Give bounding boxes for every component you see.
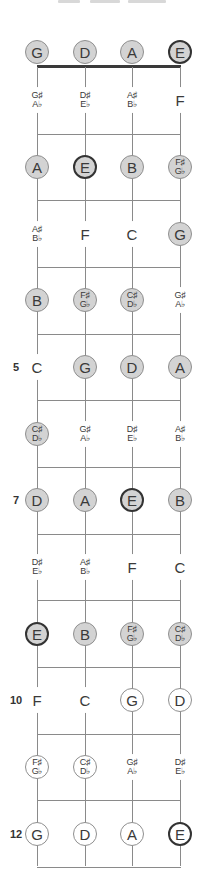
fret-line-2 (37, 200, 181, 201)
note-marker: A♯B♭ (25, 221, 49, 247)
note-marker: D♯E♭ (25, 554, 49, 580)
note-marker: D (168, 688, 192, 712)
note-marker: D♯E♭ (120, 421, 144, 447)
note-label: E (127, 493, 137, 508)
note-label: C (32, 360, 43, 375)
fret-line-12 (37, 867, 181, 868)
note-label: G (31, 827, 43, 842)
note-marker: A (25, 155, 49, 179)
note-label: C (80, 693, 91, 708)
fret-line-1 (37, 134, 181, 135)
note-label-enharmonic: A♭ (127, 767, 136, 776)
note-marker: G (168, 222, 192, 246)
note-label-enharmonic: A♭ (175, 300, 184, 309)
note-marker: E (120, 488, 144, 512)
note-label: D (80, 827, 91, 842)
note-marker: G (25, 40, 49, 64)
note-label-enharmonic: B♭ (80, 567, 89, 576)
note-marker: F♯G♭ (73, 288, 97, 312)
note-marker: D♯E♭ (168, 754, 192, 780)
note-marker: F♯G♭ (168, 155, 192, 179)
note-marker: C (73, 687, 97, 713)
note-marker: E (168, 40, 192, 64)
note-label-enharmonic: D♭ (175, 634, 185, 643)
note-label: G (79, 360, 91, 375)
note-label: A (80, 493, 90, 508)
note-label: B (80, 627, 90, 642)
note-marker: D (73, 40, 97, 64)
note-label: A (32, 160, 42, 175)
fret-line-7 (37, 534, 181, 535)
note-marker: A♯B♭ (73, 554, 97, 580)
fret-number-label: 5 (9, 360, 23, 374)
fretboard-diagram: 571012GDAEG♯A♭D♯E♭A♯B♭FAEBF♯G♭A♯B♭FCGBF♯… (0, 0, 204, 884)
note-label-enharmonic: B♭ (32, 234, 41, 243)
note-label: A (127, 45, 137, 60)
note-label-enharmonic: E♭ (127, 434, 136, 443)
note-label: D (32, 493, 43, 508)
fret-line-6 (37, 467, 181, 468)
fret-line-11 (37, 800, 181, 801)
fret-line-4 (37, 334, 181, 335)
note-marker: F (120, 554, 144, 580)
note-marker: F (168, 87, 192, 113)
nut-line (37, 65, 181, 68)
note-marker: C (120, 221, 144, 247)
fret-line-8 (37, 600, 181, 601)
note-marker: C♯D♭ (25, 422, 49, 446)
cropped-title-fragment (128, 0, 166, 3)
note-label-enharmonic: B♭ (175, 434, 184, 443)
fret-line-3 (37, 267, 181, 268)
note-label: B (127, 160, 137, 175)
note-label-enharmonic: D♭ (32, 434, 42, 443)
note-marker: B (168, 488, 192, 512)
note-marker: A (168, 355, 192, 379)
note-marker: B (73, 622, 97, 646)
note-marker: G (25, 822, 49, 846)
note-marker: E (25, 622, 49, 646)
note-label-enharmonic: G♭ (127, 634, 137, 643)
note-label: G (126, 693, 138, 708)
fret-line-5 (37, 400, 181, 401)
note-marker: D (25, 488, 49, 512)
cropped-title-fragment (90, 0, 120, 3)
fret-number-label: 7 (9, 493, 23, 507)
note-label: F (32, 693, 41, 708)
note-marker: E (168, 822, 192, 846)
note-marker: C (168, 554, 192, 580)
note-label: E (175, 45, 185, 60)
note-marker: D (73, 822, 97, 846)
note-marker: A (120, 40, 144, 64)
note-label: F (175, 93, 184, 108)
note-label: F (80, 227, 89, 242)
note-label: E (80, 160, 90, 175)
note-marker: G♯A♭ (25, 87, 49, 113)
note-label-enharmonic: A♭ (32, 100, 41, 109)
note-label-enharmonic: E♭ (80, 100, 89, 109)
note-label: D (175, 693, 186, 708)
fret-number-label: 12 (9, 827, 23, 841)
note-marker: C♯D♭ (168, 622, 192, 646)
fret-number-label: 10 (9, 693, 23, 707)
note-marker: G♯A♭ (73, 421, 97, 447)
note-marker: C♯D♭ (120, 288, 144, 312)
note-label: B (32, 293, 42, 308)
note-marker: F (73, 221, 97, 247)
note-marker: A♯B♭ (168, 421, 192, 447)
note-label: D (80, 45, 91, 60)
note-marker: A♯B♭ (120, 87, 144, 113)
note-label-enharmonic: G♭ (32, 767, 42, 776)
note-marker: B (25, 288, 49, 312)
note-label-enharmonic: A♭ (80, 434, 89, 443)
note-label-enharmonic: G♭ (80, 300, 90, 309)
note-label: E (32, 627, 42, 642)
note-marker: F (25, 687, 49, 713)
note-label: B (175, 493, 185, 508)
note-marker: D (120, 355, 144, 379)
note-marker: G (120, 688, 144, 712)
note-label: C (127, 227, 138, 242)
note-marker: D♯E♭ (73, 87, 97, 113)
note-label-enharmonic: G♭ (175, 167, 185, 176)
note-label: D (127, 360, 138, 375)
note-marker: C♯D♭ (73, 755, 97, 779)
